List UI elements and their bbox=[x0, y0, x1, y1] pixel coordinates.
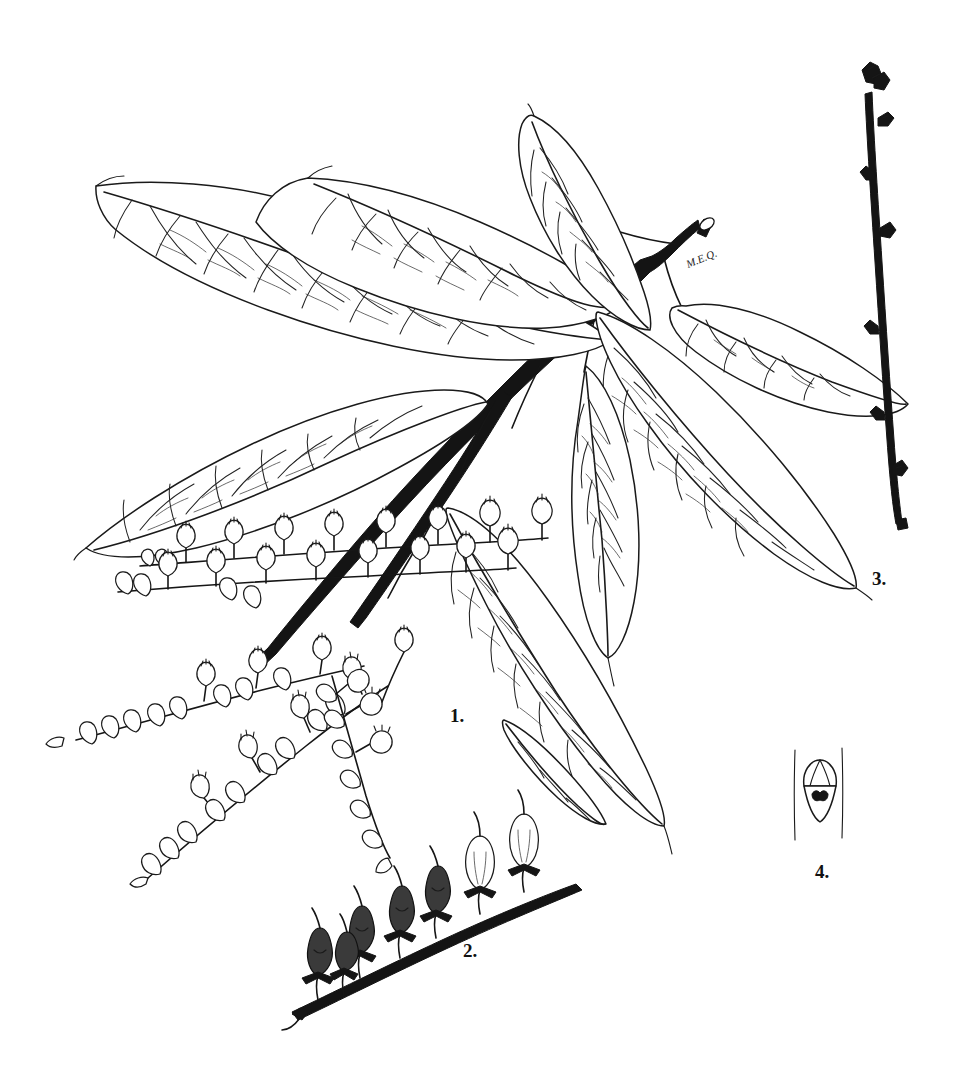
figure-4-label: 4. bbox=[815, 861, 829, 882]
illustration-plate: 1. M.E.Q. bbox=[0, 0, 960, 1074]
figure-2-label: 2. bbox=[463, 940, 477, 961]
plate-canvas: 1. M.E.Q. bbox=[0, 0, 960, 1074]
figure-3-label: 3. bbox=[872, 568, 886, 589]
figure-1-label: 1. bbox=[450, 705, 464, 726]
